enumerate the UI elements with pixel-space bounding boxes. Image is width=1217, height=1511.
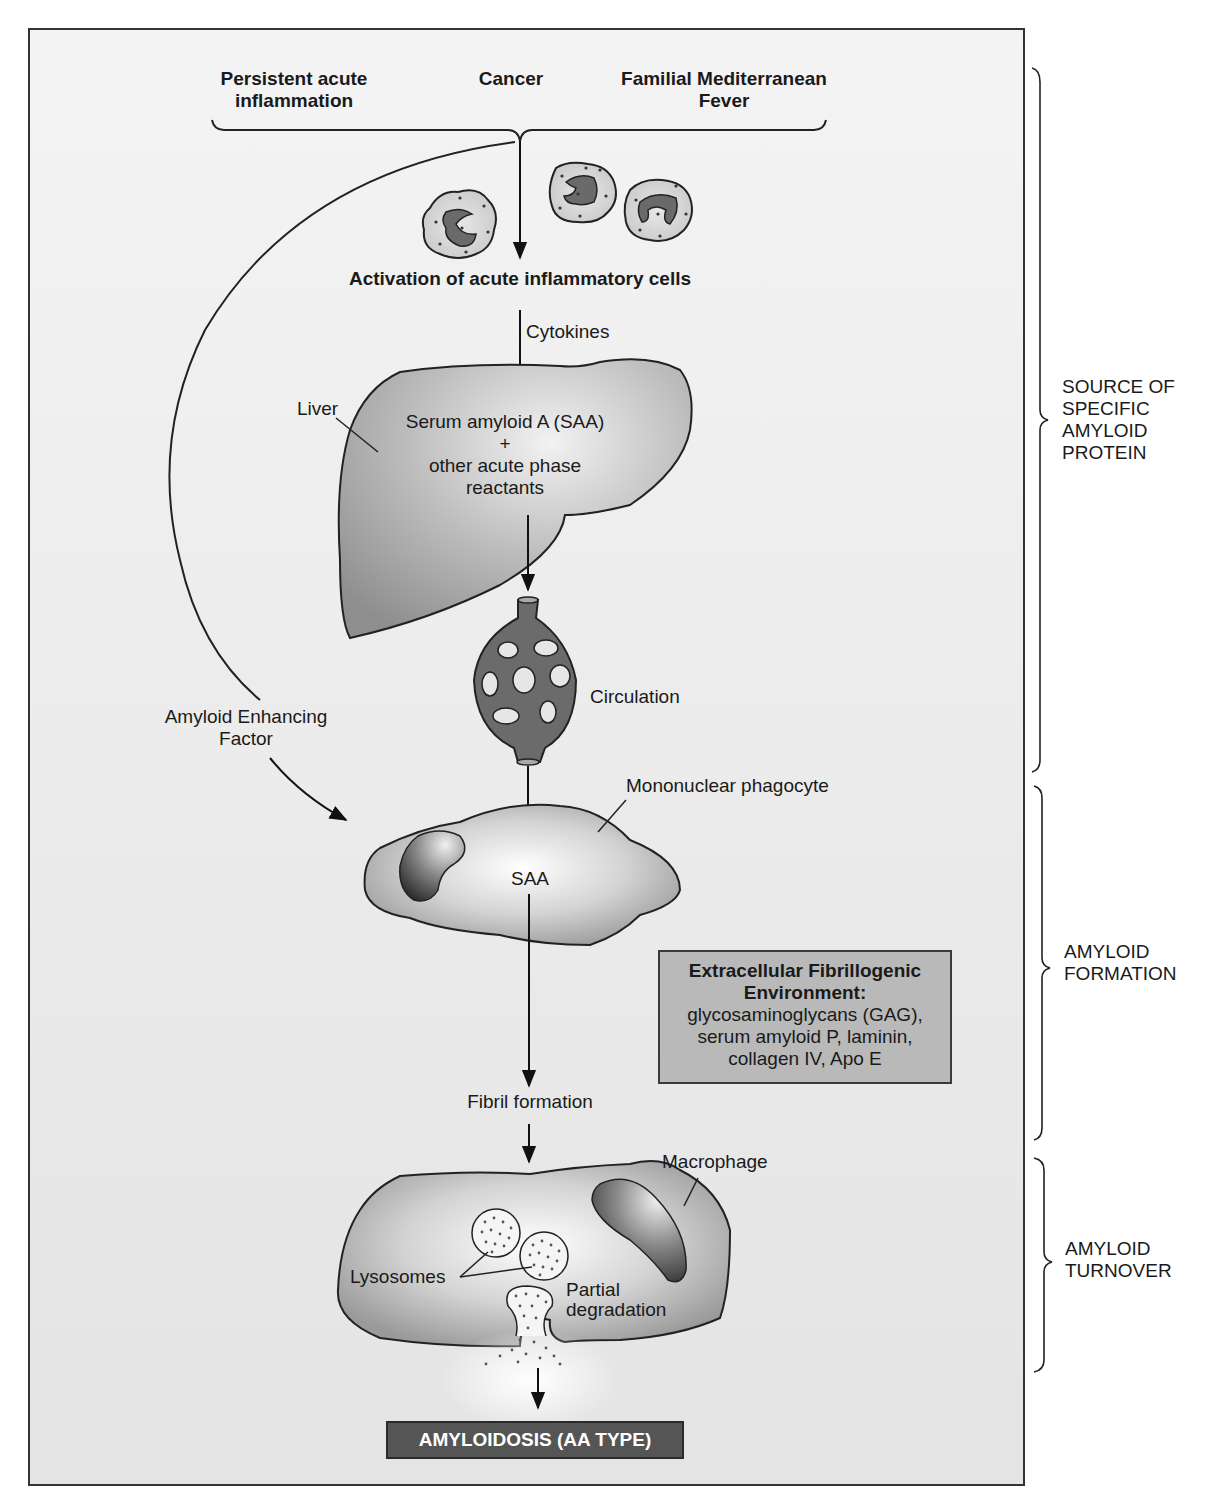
stage-line: SPECIFIC <box>1062 398 1175 420</box>
env-item: serum amyloid P, laminin, <box>660 1026 950 1048</box>
partial-degradation-label: Partial degradation <box>566 1280 666 1320</box>
lysosome-icon <box>472 1209 520 1257</box>
saa-text: Serum amyloid A (SAA) <box>380 411 630 433</box>
cause-persistent-inflammation: Persistent acute inflammation <box>196 68 392 112</box>
extracellular-environment-box: Extracellular Fibrillogenic Environment:… <box>658 950 952 1084</box>
aef-line: Amyloid Enhancing <box>146 706 346 728</box>
cause-line: inflammation <box>196 90 392 112</box>
amyloid-enhancing-factor-label: Amyloid Enhancing Factor <box>146 706 346 750</box>
mononuclear-phagocyte-label: Mononuclear phagocyte <box>626 775 829 797</box>
reactants-text: reactants <box>380 477 630 499</box>
neutrophil-icon <box>550 163 616 223</box>
env-title: Environment: <box>660 982 950 1004</box>
stage-line: AMYLOID <box>1064 941 1177 963</box>
cytokines-label: Cytokines <box>526 321 646 343</box>
blood-vessel-icon <box>474 597 576 765</box>
stage-line: AMYLOID <box>1065 1238 1172 1260</box>
aef-line: Factor <box>146 728 346 750</box>
cause-familial-mediterranean-fever: Familial Mediterranean Fever <box>596 68 852 112</box>
neutrophil-icon <box>625 180 692 241</box>
circulation-label: Circulation <box>590 686 680 708</box>
env-title: Extracellular Fibrillogenic <box>660 960 950 982</box>
stage-source-label: SOURCE OF SPECIFIC AMYLOID PROTEIN <box>1062 376 1175 464</box>
stage-brace-turnover <box>1034 1158 1052 1372</box>
liver-label: Liver <box>297 398 338 420</box>
amyloidosis-outcome-box: AMYLOIDOSIS (AA TYPE) <box>386 1421 684 1459</box>
cause-line: Persistent acute <box>196 68 392 90</box>
stage-turnover-label: AMYLOID TURNOVER <box>1065 1238 1172 1282</box>
stage-line: TURNOVER <box>1065 1260 1172 1282</box>
cause-line: Familial Mediterranean <box>596 68 852 90</box>
stage-line: SOURCE OF <box>1062 376 1175 398</box>
stage-line: AMYLOID <box>1062 420 1175 442</box>
stage-line: FORMATION <box>1064 963 1177 985</box>
plus-text: + <box>380 433 630 455</box>
degradation-line: Partial <box>566 1280 666 1300</box>
cause-brace <box>212 120 826 141</box>
lysosomes-label: Lysosomes <box>350 1266 445 1288</box>
env-item: collagen IV, Apo E <box>660 1048 950 1070</box>
cause-line: Fever <box>596 90 852 112</box>
cause-cancer: Cancer <box>456 68 566 90</box>
macrophage-label: Macrophage <box>662 1151 768 1173</box>
liver-content: Serum amyloid A (SAA) + other acute phas… <box>380 411 630 499</box>
stage-brace-formation <box>1034 786 1050 1140</box>
stage-formation-label: AMYLOID FORMATION <box>1064 941 1177 985</box>
env-item: glycosaminoglycans (GAG), <box>660 1004 950 1026</box>
stage-brace-source <box>1032 68 1048 772</box>
reactants-text: other acute phase <box>380 455 630 477</box>
fibril-formation-label: Fibril formation <box>440 1091 620 1113</box>
stage-line: PROTEIN <box>1062 442 1175 464</box>
saa-label: SAA <box>500 868 560 890</box>
activation-label: Activation of acute inflammatory cells <box>300 268 740 290</box>
degradation-line: degradation <box>566 1300 666 1320</box>
lysosome-icon <box>520 1232 568 1280</box>
neutrophil-icon <box>423 190 496 258</box>
